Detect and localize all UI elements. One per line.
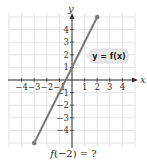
x-tick-label: 2 bbox=[94, 82, 99, 92]
function-label-callout: y = f(x) bbox=[86, 49, 128, 63]
x-tick-label: −3 bbox=[28, 82, 41, 92]
y-tick-label: 1 bbox=[64, 62, 69, 72]
y-tick-label: 4 bbox=[64, 25, 69, 35]
x-tick-label: 3 bbox=[107, 82, 112, 92]
x-tick-label: 4 bbox=[120, 82, 125, 92]
x-axis-label: x bbox=[140, 74, 146, 85]
y-tick-label: −4 bbox=[56, 125, 69, 135]
endpoint-dot bbox=[95, 15, 100, 20]
function-label: y = f(x) bbox=[92, 52, 125, 61]
y-tick-label: −3 bbox=[56, 113, 69, 123]
x-tick-label: −2 bbox=[41, 82, 54, 92]
callout-pointer-icon bbox=[86, 53, 90, 59]
y-tick-label: 2 bbox=[64, 50, 69, 60]
x-tick-label: 1 bbox=[82, 82, 87, 92]
y-tick-label: 3 bbox=[64, 37, 69, 47]
x-tick-label: −4 bbox=[15, 82, 28, 92]
endpoint-dot bbox=[32, 141, 37, 146]
function-graph: −4−3−2−11234−4−3−2−11234 y = f(x) x y bbox=[0, 0, 147, 163]
y-tick-label: −2 bbox=[56, 100, 69, 110]
question-text: f(−2) = ? bbox=[0, 148, 147, 159]
y-axis-label: y bbox=[67, 3, 74, 14]
question-argument: (−2) = ? bbox=[54, 148, 97, 159]
axes bbox=[8, 13, 138, 148]
